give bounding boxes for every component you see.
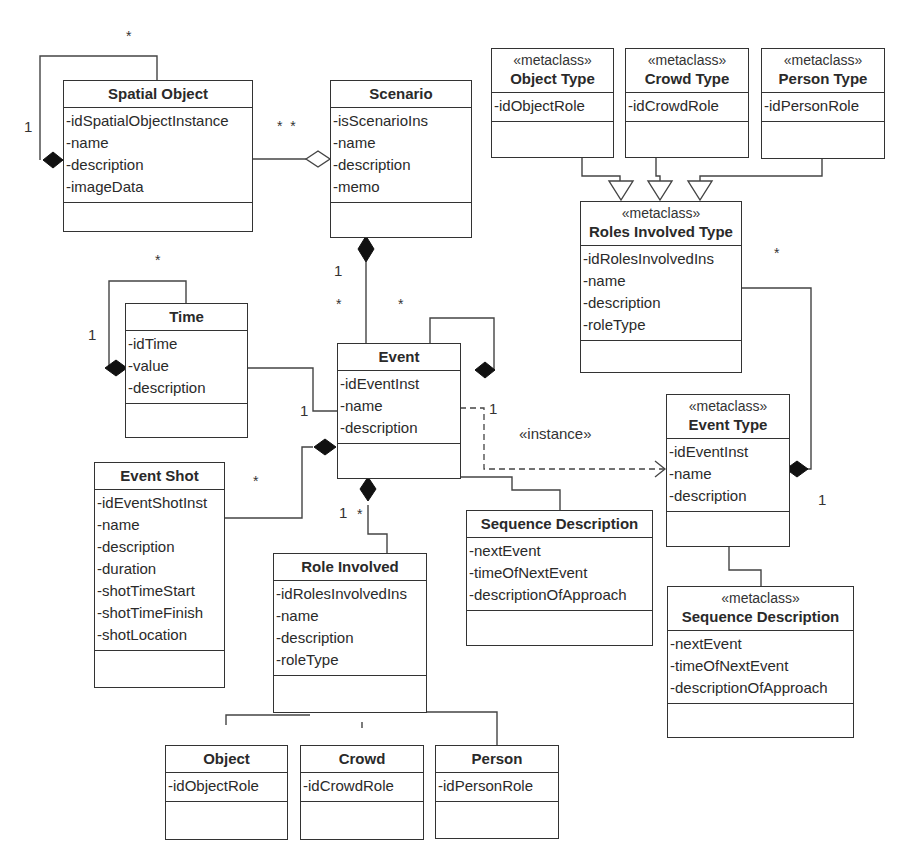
attribute: -roleType xyxy=(583,314,741,336)
class-sequence-description[interactable]: Sequence Description -nextEvent -timeOfN… xyxy=(466,510,653,646)
class-time[interactable]: Time -idTime -value -description xyxy=(125,303,248,438)
attribute: -nextEvent xyxy=(469,540,652,562)
attribute: -name xyxy=(333,132,471,154)
class-stereotype: «metaclass» xyxy=(628,52,746,69)
multiplicity-label: * xyxy=(774,245,779,261)
class-role-involved[interactable]: Role Involved -idRolesInvolvedIns -name … xyxy=(273,553,427,713)
class-name: Object xyxy=(168,749,285,768)
attribute: -idPersonRole xyxy=(438,775,558,797)
attribute-list: -idObjectRole xyxy=(492,93,613,122)
attribute-list: -idEventShotInst -name -description -dur… xyxy=(95,490,224,651)
attribute: -descriptionOfApproach xyxy=(670,677,853,699)
class-name: Time xyxy=(128,307,245,326)
attribute: -description xyxy=(97,536,224,558)
class-header: Time xyxy=(126,304,247,331)
class-header: «metaclass» Object Type xyxy=(492,49,613,93)
attribute-list: -nextEvent -timeOfNextEvent -description… xyxy=(467,538,652,611)
attribute: -idObjectRole xyxy=(494,95,613,117)
attribute-list: -nextEvent -timeOfNextEvent -description… xyxy=(668,631,853,704)
class-name: Sequence Description xyxy=(670,607,851,626)
class-person[interactable]: Person -idPersonRole xyxy=(435,745,559,839)
multiplicity-label: 1 xyxy=(88,326,96,343)
attribute: -name xyxy=(340,395,460,417)
multiplicity-label: 1 xyxy=(818,491,826,508)
class-sequence-description-metaclass[interactable]: «metaclass» Sequence Description -nextEv… xyxy=(667,586,854,738)
multiplicity-label: 1 xyxy=(300,402,308,419)
attribute: -description xyxy=(276,627,426,649)
multiplicity-label: * xyxy=(126,28,131,44)
class-header: «metaclass» Roles Involved Type xyxy=(581,202,741,246)
class-header: Spatial Object xyxy=(64,81,252,108)
attribute-list: -idRolesInvolvedIns -name -description -… xyxy=(581,246,741,341)
attribute-list: -idPersonRole xyxy=(762,93,884,122)
multiplicity-label: * xyxy=(398,296,403,312)
class-stereotype: «metaclass» xyxy=(764,52,882,69)
attribute: -idObjectRole xyxy=(168,775,287,797)
class-header: Scenario xyxy=(331,81,471,108)
attribute: -description xyxy=(128,377,247,399)
class-header: Event Shot xyxy=(95,463,224,490)
class-object-type[interactable]: «metaclass» Object Type -idObjectRole xyxy=(491,48,614,158)
class-spatial-object[interactable]: Spatial Object -idSpatialObjectInstance … xyxy=(63,80,253,232)
class-stereotype: «metaclass» xyxy=(583,205,739,222)
multiplicity-label: 1 xyxy=(339,504,347,521)
class-name: Event Shot xyxy=(97,466,222,485)
attribute: -description xyxy=(66,154,252,176)
class-name: Scenario xyxy=(333,84,469,103)
attribute: -description xyxy=(340,417,460,439)
attribute: -imageData xyxy=(66,176,252,198)
class-name: Spatial Object xyxy=(66,84,250,103)
attribute-list: -idRolesInvolvedIns -name -description -… xyxy=(274,581,426,676)
attribute: -idRolesInvolvedIns xyxy=(583,248,741,270)
attribute: -idSpatialObjectInstance xyxy=(66,110,252,132)
class-header: «metaclass» Sequence Description xyxy=(668,587,853,631)
attribute: -idEventShotInst xyxy=(97,492,224,514)
class-object[interactable]: Object -idObjectRole xyxy=(165,745,288,840)
attribute: -name xyxy=(97,514,224,536)
multiplicity-label: * xyxy=(336,296,341,312)
attribute-list: -isScenarioIns -name -description -memo xyxy=(331,108,471,203)
attribute-list: -idSpatialObjectInstance -name -descript… xyxy=(64,108,252,203)
attribute: -timeOfNextEvent xyxy=(670,655,853,677)
multiplicity-label: 1 xyxy=(24,118,32,135)
class-stereotype: «metaclass» xyxy=(669,398,787,415)
class-stereotype: «metaclass» xyxy=(670,590,851,607)
multiplicity-label: * * xyxy=(277,118,296,134)
class-person-type[interactable]: «metaclass» Person Type -idPersonRole xyxy=(761,48,885,159)
class-name: Sequence Description xyxy=(469,514,650,533)
multiplicity-label: * xyxy=(155,252,160,268)
class-header: Crowd xyxy=(301,746,423,773)
class-header: «metaclass» Person Type xyxy=(762,49,884,93)
class-scenario[interactable]: Scenario -isScenarioIns -name -descripti… xyxy=(330,80,472,238)
attribute: -idTime xyxy=(128,333,247,355)
attribute: -shotTimeStart xyxy=(97,580,224,602)
attribute-list: -idCrowdRole xyxy=(626,93,748,122)
class-event[interactable]: Event -idEventInst -name -description xyxy=(337,343,461,479)
attribute: -name xyxy=(669,463,789,485)
instance-stereotype-label: «instance» xyxy=(519,425,592,442)
class-name: Person Type xyxy=(764,69,882,88)
class-name: Crowd Type xyxy=(628,69,746,88)
class-header: Sequence Description xyxy=(467,511,652,538)
attribute-list: -idEventInst -name -description xyxy=(667,439,789,512)
attribute: -description xyxy=(669,485,789,507)
class-name: Event Type xyxy=(669,415,787,434)
class-name: Object Type xyxy=(494,69,611,88)
multiplicity-label: 1 xyxy=(334,262,342,279)
class-event-type[interactable]: «metaclass» Event Type -idEventInst -nam… xyxy=(666,394,790,547)
class-name: Person xyxy=(438,749,556,768)
attribute: -name xyxy=(66,132,252,154)
attribute: -nextEvent xyxy=(670,633,853,655)
attribute-list: -idEventInst -name -description xyxy=(338,371,460,444)
class-event-shot[interactable]: Event Shot -idEventShotInst -name -descr… xyxy=(94,462,225,688)
attribute: -shotLocation xyxy=(97,624,224,646)
attribute: -description xyxy=(333,154,471,176)
class-roles-involved-type[interactable]: «metaclass» Roles Involved Type -idRoles… xyxy=(580,201,742,373)
class-stereotype: «metaclass» xyxy=(494,52,611,69)
class-crowd[interactable]: Crowd -idCrowdRole xyxy=(300,745,424,840)
class-crowd-type[interactable]: «metaclass» Crowd Type -idCrowdRole xyxy=(625,48,749,158)
class-name: Crowd xyxy=(303,749,421,768)
attribute: -name xyxy=(583,270,741,292)
attribute: -idRolesInvolvedIns xyxy=(276,583,426,605)
attribute: -descriptionOfApproach xyxy=(469,584,652,606)
